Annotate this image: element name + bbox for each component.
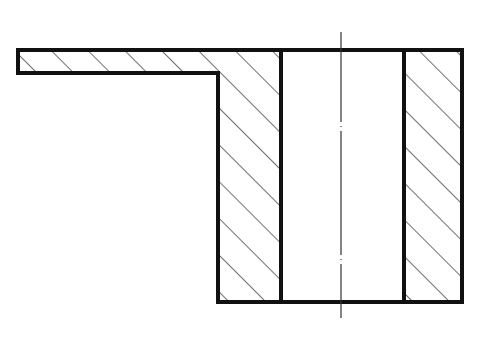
- right-wall-hatch: [404, 50, 462, 302]
- section-drawing: [0, 0, 487, 339]
- left-section-hatch: [18, 50, 281, 302]
